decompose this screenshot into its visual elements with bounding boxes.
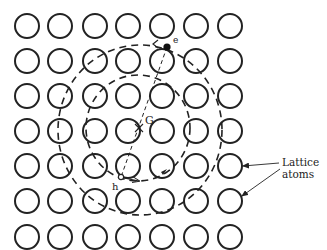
lattice-atom [218,189,242,213]
lattice-atom [150,84,174,108]
annotation-arrow-upper [243,163,279,166]
lattice-atom [48,14,72,38]
lattice-atom [116,84,140,108]
hole-dot [118,174,123,179]
lattice-atom [184,189,208,213]
lattice-atom [150,154,174,178]
lattice-atom [15,119,39,143]
lattice-atom [48,189,72,213]
annotation-arrow-lower [242,169,280,196]
lattice-atom [218,84,242,108]
lattice-atom [218,49,242,73]
lattice-atom [83,49,107,73]
lattice-atom [15,84,39,108]
exciton-lattice-diagram: G e h Lattice atoms [0,0,327,250]
lattice-atom [83,14,107,38]
lattice-atom [150,225,174,249]
lattice-atom [48,119,72,143]
lattice-atom [48,49,72,73]
lattice-atom [218,225,242,249]
lattice-atom [116,189,140,213]
lattice-atom [218,14,242,38]
lattice-atom [83,189,107,213]
lattice-atom [184,84,208,108]
lattice-atom [48,154,72,178]
electron-hole-connector [121,47,167,177]
annotation-line-1: Lattice [282,156,319,168]
electron-dot [163,43,170,50]
lattice-atom [184,49,208,73]
center-of-mass-label: G [145,114,154,127]
hole-label: h [112,181,119,192]
lattice-atom [184,225,208,249]
lattice-atom [116,14,140,38]
lattice-atom [150,14,174,38]
lattice-atoms-grid [15,14,242,249]
lattice-atom [184,119,208,143]
lattice-atom [83,225,107,249]
lattice-atom [184,14,208,38]
lattice-atom [48,225,72,249]
lattice-atom [15,49,39,73]
lattice-atom [184,154,208,178]
lattice-atom [15,154,39,178]
lattice-atom [15,14,39,38]
electron-label: e [173,35,178,45]
lattice-atom [218,154,242,178]
lattice-atom [116,225,140,249]
lattice-atom [15,225,39,249]
lattice-atom [116,49,140,73]
annotation-line-2: atoms [282,168,314,180]
lattice-atom [15,189,39,213]
